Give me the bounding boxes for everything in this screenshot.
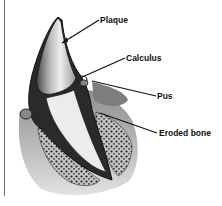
leader-line-calculus — [80, 58, 125, 78]
tooth-illustration — [0, 0, 222, 206]
calculus-deposit-left — [20, 109, 32, 119]
label-plaque: Plaque — [100, 16, 128, 25]
label-pus: Pus — [157, 92, 173, 101]
label-eroded-bone: Eroded bone — [159, 129, 211, 138]
label-calculus: Calculus — [126, 54, 161, 63]
leader-line-plaque — [62, 20, 99, 43]
